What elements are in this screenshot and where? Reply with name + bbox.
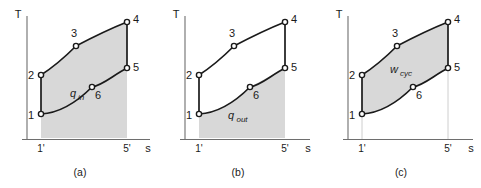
state-point-5-a xyxy=(124,65,129,70)
tick-label-1prime-c: 1' xyxy=(358,143,366,154)
annotation-wcyc-symbol: w xyxy=(390,63,399,75)
state-label-1-a: 1 xyxy=(28,109,34,121)
state-point-2-c xyxy=(359,72,364,77)
state-point-1-a xyxy=(38,111,43,116)
y-axis-label-b: T xyxy=(173,8,180,20)
panel-c: 1 2 3 4 5 6 T s 1' 5' w cyc (c) xyxy=(321,0,481,188)
tick-label-5prime-b: 5' xyxy=(281,143,289,154)
state-label-3-c: 3 xyxy=(392,27,398,39)
y-axis-label-c: T xyxy=(336,8,343,20)
panel-caption-a: (a) xyxy=(74,166,87,178)
state-label-2-b: 2 xyxy=(186,69,192,81)
state-label-6-c: 6 xyxy=(416,89,422,101)
state-point-6-b xyxy=(247,84,252,89)
tick-label-5prime-c: 5' xyxy=(444,143,452,154)
annotation-qout-symbol: q xyxy=(228,109,235,121)
state-label-6-a: 6 xyxy=(95,89,101,101)
tick-label-5prime-a: 5' xyxy=(123,143,131,154)
y-axis-label-a: T xyxy=(15,8,22,20)
tick-label-1prime-a: 1' xyxy=(37,143,45,154)
shaded-region-wcyc xyxy=(362,22,448,114)
state-point-4-c xyxy=(445,19,450,24)
state-point-5-c xyxy=(445,65,450,70)
annotation-wcyc-subscript: cyc xyxy=(400,69,412,78)
path-2-3-4-b xyxy=(199,22,285,75)
x-axis-label-a: s xyxy=(145,142,151,154)
state-label-1-b: 1 xyxy=(186,109,192,121)
state-point-1-c xyxy=(359,111,364,116)
x-axis-label-c: s xyxy=(468,142,474,154)
panel-caption-b: (b) xyxy=(232,166,245,178)
panel-a: 1 2 3 4 5 6 T s 1' 5' q in (a) xyxy=(0,0,160,188)
state-point-1-b xyxy=(196,111,201,116)
state-label-4-a: 4 xyxy=(133,13,139,25)
shaded-region-qout xyxy=(199,68,285,138)
x-axis-label-b: s xyxy=(305,142,311,154)
state-label-2-c: 2 xyxy=(349,69,355,81)
ts-diagram-figure: 1 2 3 4 5 6 T s 1' 5' q in (a) xyxy=(0,0,481,188)
state-point-2-b xyxy=(196,72,201,77)
state-label-2-a: 2 xyxy=(28,69,34,81)
state-point-6-a xyxy=(89,84,94,89)
state-label-1-c: 1 xyxy=(349,109,355,121)
state-point-2-a xyxy=(38,72,43,77)
state-label-3-a: 3 xyxy=(71,27,77,39)
tick-label-1prime-b: 1' xyxy=(195,143,203,154)
panel-caption-c: (c) xyxy=(395,166,407,178)
state-point-5-b xyxy=(282,65,287,70)
state-point-6-c xyxy=(410,84,415,89)
panel-b: 1 2 3 4 5 6 T s 1' 5' q out (b) xyxy=(158,0,318,188)
state-label-3-b: 3 xyxy=(229,27,235,39)
state-label-5-b: 5 xyxy=(291,61,297,73)
state-label-5-c: 5 xyxy=(454,61,460,73)
state-point-3-c xyxy=(394,43,399,48)
state-point-4-b xyxy=(282,19,287,24)
state-label-5-a: 5 xyxy=(133,61,139,73)
annotation-qin-symbol: q xyxy=(70,87,77,99)
state-point-4-a xyxy=(124,19,129,24)
annotation-qin-subscript: in xyxy=(78,93,85,102)
state-label-4-c: 4 xyxy=(454,13,460,25)
state-point-3-b xyxy=(231,43,236,48)
state-label-6-b: 6 xyxy=(253,89,259,101)
annotation-qout-subscript: out xyxy=(236,115,248,124)
state-point-3-a xyxy=(73,43,78,48)
state-label-4-b: 4 xyxy=(291,13,297,25)
